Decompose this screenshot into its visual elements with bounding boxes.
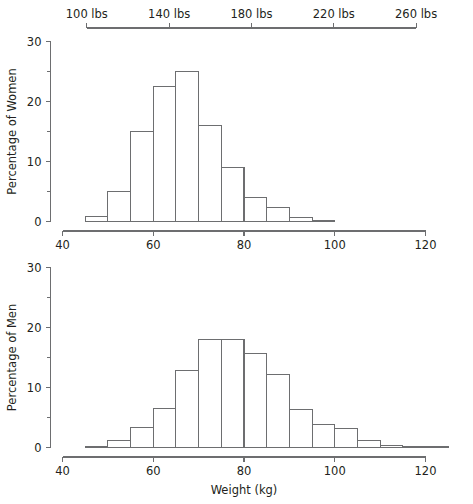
bar-110-115 [380, 446, 403, 448]
weight-distribution-figure: 0102030Percentage of Women40608010012010… [0, 0, 473, 504]
men-histogram-y-axis-title: Percentage of Men [5, 304, 19, 411]
bar-45-50 [85, 446, 108, 447]
men-histogram-x-ticklabel-100: 100 [324, 464, 346, 478]
women-histogram-y-axis: 0102030 [27, 35, 51, 229]
men-histogram-x-ticklabel-120: 120 [415, 464, 437, 478]
bar-50-55 [108, 192, 131, 222]
men-histogram-x-ticklabel-80: 80 [237, 464, 252, 478]
women-histogram-y-axis-title: Percentage of Women [5, 68, 19, 194]
women-histogram-x-ticklabel-100: 100 [324, 238, 346, 252]
bar-100-105 [335, 428, 358, 447]
bar-120-125 [426, 447, 449, 448]
men-histogram-y-axis: 0102030 [27, 261, 51, 455]
men-histogram-panel: 0102030Percentage of Men406080100120Weig… [5, 261, 448, 498]
bar-70-75 [199, 340, 222, 448]
histogram-svg: 0102030Percentage of Women40608010012010… [0, 0, 473, 504]
bar-65-70 [176, 371, 199, 448]
women-histogram-y-ticklabel-10: 10 [27, 155, 42, 169]
bar-70-75 [199, 126, 222, 222]
bar-90-95 [289, 409, 312, 447]
bar-55-60 [131, 132, 154, 222]
bar-115-120 [403, 447, 426, 448]
women-histogram-x-axis: 406080100120 [55, 231, 436, 252]
women-histogram-secondary-ticklabel-0: 100 lbs [66, 7, 108, 21]
bar-60-65 [153, 409, 176, 448]
men-histogram-y-ticklabel-10: 10 [27, 381, 42, 395]
women-histogram-x-ticklabel-120: 120 [415, 238, 437, 252]
men-histogram-x-ticklabel-60: 60 [146, 464, 161, 478]
women-histogram-secondary-ticklabel-4: 260 lbs [395, 7, 437, 21]
women-histogram-y-ticklabel-0: 0 [34, 215, 41, 229]
bar-85-90 [267, 374, 290, 447]
bar-60-65 [153, 87, 176, 222]
bar-80-85 [244, 198, 267, 222]
women-histogram-secondary-x-axis: 100 lbs140 lbs180 lbs220 lbs260 lbs [66, 7, 437, 28]
bar-85-90 [267, 208, 290, 222]
women-histogram-panel: 0102030Percentage of Women40608010012010… [5, 7, 437, 252]
women-histogram-secondary-ticklabel-1: 140 lbs [148, 7, 190, 21]
men-histogram-y-ticklabel-0: 0 [34, 441, 41, 455]
women-histogram-secondary-ticklabel-2: 180 lbs [230, 7, 272, 21]
men-histogram-y-ticklabel-20: 20 [27, 321, 42, 335]
women-histogram-x-ticklabel-80: 80 [237, 238, 252, 252]
women-histogram-y-ticklabel-20: 20 [27, 95, 42, 109]
bar-65-70 [176, 72, 199, 222]
women-histogram-bars [85, 72, 335, 222]
men-histogram-x-axis: 406080100120 [55, 457, 436, 478]
men-histogram-x-axis-title: Weight (kg) [211, 483, 278, 497]
bar-45-50 [85, 217, 108, 222]
bar-50-55 [108, 440, 131, 447]
women-histogram-x-ticklabel-40: 40 [55, 238, 70, 252]
men-histogram-x-ticklabel-40: 40 [55, 464, 70, 478]
bar-55-60 [131, 428, 154, 448]
bar-95-100 [312, 220, 335, 221]
bar-105-110 [357, 440, 380, 447]
women-histogram-x-ticklabel-60: 60 [146, 238, 161, 252]
bar-75-80 [221, 340, 244, 448]
women-histogram-y-ticklabel-30: 30 [27, 35, 42, 49]
bar-80-85 [244, 353, 267, 447]
bar-95-100 [312, 424, 335, 447]
men-histogram-bars [85, 340, 448, 448]
bar-90-95 [289, 217, 312, 221]
women-histogram-secondary-ticklabel-3: 220 lbs [313, 7, 355, 21]
bar-75-80 [221, 168, 244, 222]
men-histogram-y-ticklabel-30: 30 [27, 261, 42, 275]
